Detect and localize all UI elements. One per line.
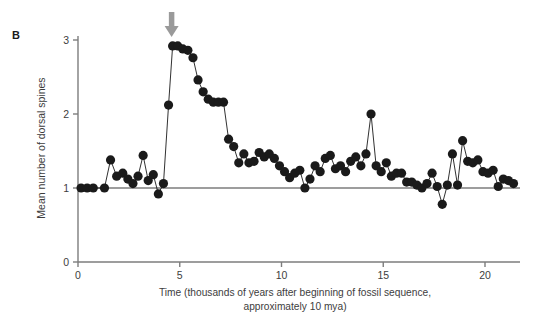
data-point bbox=[433, 182, 442, 191]
data-point bbox=[382, 158, 391, 167]
data-point bbox=[100, 183, 109, 192]
x-tick-label: 20 bbox=[479, 269, 491, 281]
data-point bbox=[316, 167, 325, 176]
data-point bbox=[164, 101, 173, 110]
data-point bbox=[438, 200, 447, 209]
y-tick-label: 2 bbox=[63, 108, 69, 120]
data-point bbox=[300, 183, 309, 192]
data-point bbox=[106, 155, 115, 164]
data-point bbox=[341, 167, 350, 176]
down-arrow-icon bbox=[165, 26, 179, 37]
x-tick-label: 10 bbox=[276, 269, 288, 281]
data-point bbox=[193, 75, 202, 84]
data-point bbox=[305, 175, 314, 184]
data-point bbox=[351, 152, 360, 161]
data-point bbox=[361, 149, 370, 158]
data-point bbox=[139, 151, 148, 160]
data-point bbox=[159, 179, 168, 188]
x-tick-label: 15 bbox=[377, 269, 389, 281]
data-point bbox=[473, 155, 482, 164]
data-point bbox=[422, 179, 431, 188]
data-point bbox=[377, 167, 386, 176]
y-tick-label: 0 bbox=[63, 256, 69, 268]
data-point bbox=[356, 161, 365, 170]
data-point bbox=[443, 180, 452, 189]
data-point bbox=[458, 136, 467, 145]
data-series-layer bbox=[76, 41, 518, 209]
data-point bbox=[234, 158, 243, 167]
y-tick-label: 3 bbox=[63, 34, 69, 46]
x-tick-label: 5 bbox=[177, 269, 183, 281]
data-point bbox=[219, 98, 228, 107]
data-point bbox=[154, 189, 163, 198]
data-point bbox=[229, 142, 238, 151]
x-tick-label: 0 bbox=[75, 269, 81, 281]
data-point bbox=[89, 183, 98, 192]
figure-panel-b: B Mean number of dorsal spines Time (tho… bbox=[0, 0, 539, 324]
arrow-annotation-layer bbox=[165, 12, 179, 37]
data-point bbox=[149, 170, 158, 179]
data-point bbox=[133, 172, 142, 181]
data-point bbox=[249, 157, 258, 166]
data-point bbox=[489, 166, 498, 175]
data-point bbox=[453, 180, 462, 189]
data-point bbox=[397, 169, 406, 178]
data-point bbox=[188, 53, 197, 62]
data-point bbox=[427, 169, 436, 178]
line-chart: 012305101520 bbox=[0, 0, 539, 324]
data-point bbox=[366, 109, 375, 118]
data-point bbox=[239, 149, 248, 158]
data-point bbox=[326, 151, 335, 160]
y-tick-label: 1 bbox=[63, 182, 69, 194]
data-point bbox=[295, 166, 304, 175]
data-point bbox=[448, 149, 457, 158]
data-point bbox=[509, 179, 518, 188]
